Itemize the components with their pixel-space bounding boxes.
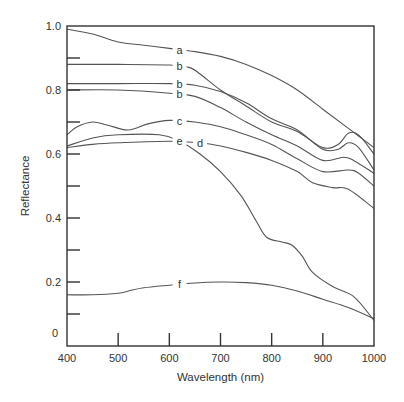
curve-b-3 — [67, 90, 374, 173]
curve-labels-group: abbbcdef — [173, 44, 207, 291]
curve-label-b: b — [177, 60, 183, 72]
x-axis-title: Wavelength (nm) — [177, 371, 264, 383]
y-tick-label: 0 — [52, 327, 58, 339]
curve-f-7 — [67, 282, 374, 319]
x-tick-label: 500 — [109, 352, 127, 364]
curve-b-1 — [67, 64, 374, 154]
curve-label-c: c — [177, 115, 183, 127]
reflectance-chart: abbbcdef 4005006007008009001000 00.20.40… — [0, 0, 404, 402]
curve-c-4 — [67, 120, 374, 186]
axes-group — [67, 26, 374, 346]
x-tick-label: 1000 — [362, 352, 386, 364]
plot-frame — [67, 26, 374, 346]
x-ticks-group: 4005006007008009001000 — [58, 333, 386, 364]
curve-label-d: d — [197, 137, 203, 149]
y-tick-label: 0.6 — [46, 148, 61, 160]
y-axis-title: Reflectance — [19, 156, 31, 217]
y-tick-label: 1.0 — [46, 20, 61, 32]
curve-a-0 — [67, 29, 374, 147]
curve-e-6 — [67, 134, 374, 320]
x-tick-label: 800 — [262, 352, 280, 364]
curve-d-5 — [67, 141, 374, 208]
x-tick-label: 900 — [314, 352, 332, 364]
y-tick-label: 0.2 — [46, 276, 61, 288]
curves-group — [67, 29, 374, 320]
x-tick-label: 700 — [211, 352, 229, 364]
y-tick-label: 0.8 — [46, 84, 61, 96]
curve-label-e: e — [177, 135, 183, 147]
y-tick-label: 0.4 — [46, 212, 61, 224]
y-ticks-group: 00.20.40.60.81.0 — [46, 20, 80, 339]
curve-label-a: a — [177, 44, 184, 56]
x-tick-label: 600 — [160, 352, 178, 364]
x-tick-label: 400 — [58, 352, 76, 364]
curve-label-b: b — [177, 88, 183, 100]
